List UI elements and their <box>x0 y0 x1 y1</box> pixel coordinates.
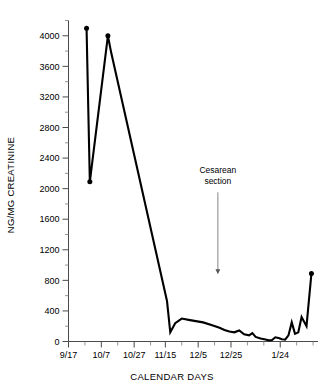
data-line <box>87 28 312 340</box>
x-tick-label: 12/25 <box>220 350 243 360</box>
x-tick-label: 9/17 <box>60 350 78 360</box>
x-axis-title: CALENDAR DAYS <box>130 371 213 382</box>
annotation-label-line2: section <box>204 176 231 186</box>
y-tick-label: 3600 <box>39 62 59 72</box>
y-tick-label: 3200 <box>39 92 59 102</box>
x-tick-label: 1/24 <box>271 350 289 360</box>
data-point <box>87 179 92 184</box>
chart-svg: 040080012001600200024002800320036004000 … <box>0 0 323 392</box>
x-tick-label: 10/27 <box>123 350 146 360</box>
x-tick-label: 10/7 <box>93 350 111 360</box>
x-tick-label: 12/5 <box>189 350 207 360</box>
y-axis-title: NG/MG CREATININE <box>5 137 16 233</box>
y-tick-label: 400 <box>44 306 59 316</box>
x-axis: 9/1710/710/2711/1512/512/251/24 <box>60 342 318 360</box>
data-point <box>105 33 110 38</box>
data-point <box>309 271 314 276</box>
y-tick-label: 2000 <box>39 184 59 194</box>
y-axis: 040080012001600200024002800320036004000 <box>39 21 68 347</box>
y-tick-label: 0 <box>54 337 59 347</box>
annotation-label-line1: Cesarean <box>199 165 236 175</box>
chart-figure: 040080012001600200024002800320036004000 … <box>0 0 323 392</box>
y-tick-label: 2400 <box>39 153 59 163</box>
data-series-group <box>84 26 314 341</box>
y-tick-label: 4000 <box>39 31 59 41</box>
annotation-group: Cesareansection <box>199 165 236 274</box>
y-tick-label: 1600 <box>39 214 59 224</box>
y-tick-label: 2800 <box>39 123 59 133</box>
y-tick-label: 1200 <box>39 245 59 255</box>
annotation-arrow-head-icon <box>215 269 220 274</box>
data-point <box>84 26 89 31</box>
y-tick-label: 800 <box>44 276 59 286</box>
x-tick-label: 11/15 <box>154 350 176 360</box>
